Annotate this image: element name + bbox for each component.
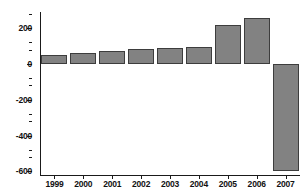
x-axis-tick-label-2003: 2003 bbox=[161, 179, 179, 189]
y-axis-ticks: 2000-200-400-600 bbox=[0, 12, 36, 175]
y-axis-tick-label: -400 bbox=[16, 131, 32, 141]
bar-2007 bbox=[273, 64, 299, 171]
y-axis-minor-tick bbox=[29, 14, 32, 15]
bar-2002 bbox=[128, 49, 154, 64]
y-axis-minor-tick bbox=[29, 157, 32, 158]
y-axis-minor-tick bbox=[29, 121, 32, 122]
bar-2000 bbox=[70, 53, 96, 64]
y-axis-minor-tick bbox=[29, 78, 32, 79]
x-axis-tick-label-2001: 2001 bbox=[103, 179, 121, 189]
bar-2004 bbox=[186, 47, 212, 64]
y-axis-minor-tick bbox=[29, 114, 32, 115]
bar-chart: 2000-200-400-600 19992000200120022003200… bbox=[0, 0, 304, 192]
bar-2003 bbox=[157, 48, 183, 64]
y-axis-tick-label: 200 bbox=[18, 23, 32, 33]
bar-2005 bbox=[215, 25, 241, 64]
y-axis-minor-tick bbox=[29, 50, 32, 51]
x-axis-tick-label-2002: 2002 bbox=[132, 179, 150, 189]
x-axis-tick-label-2000: 2000 bbox=[74, 179, 92, 189]
x-axis-tick-label-2004: 2004 bbox=[190, 179, 208, 189]
bar-1999 bbox=[41, 55, 67, 64]
x-axis-tick-label-2007: 2007 bbox=[276, 179, 294, 189]
y-axis-minor-tick bbox=[29, 42, 32, 43]
y-axis-tick-label: 0 bbox=[27, 59, 32, 69]
y-axis-minor-tick bbox=[29, 150, 32, 151]
x-axis-tick-label-2005: 2005 bbox=[219, 179, 237, 189]
x-axis-tick-label-1999: 1999 bbox=[45, 179, 63, 189]
y-axis-minor-tick bbox=[29, 85, 32, 86]
plot-area bbox=[40, 12, 300, 175]
x-axis-tick-label-2006: 2006 bbox=[248, 179, 266, 189]
y-axis-tick-label: -200 bbox=[16, 95, 32, 105]
y-axis-tick-label: -600 bbox=[16, 166, 32, 176]
bar-2001 bbox=[99, 51, 125, 64]
bar-2006 bbox=[244, 18, 270, 64]
